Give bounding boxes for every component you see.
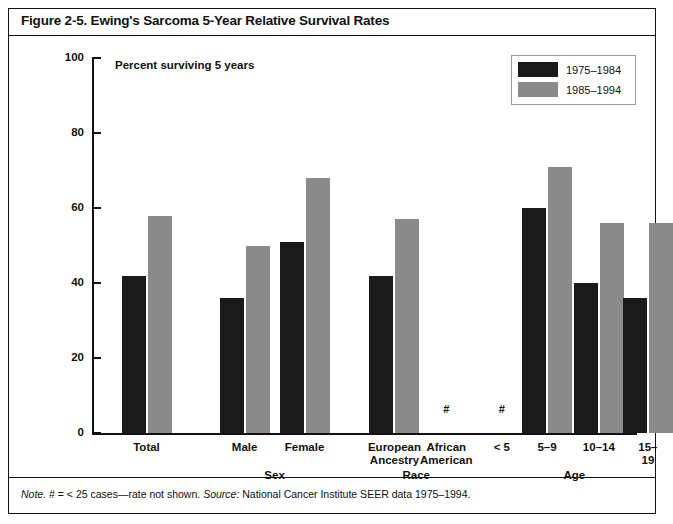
- legend-swatch: [518, 82, 558, 97]
- bar-male-1975-1984: [220, 298, 244, 433]
- figure-title-bar: Figure 2-5. Ewing's Sarcoma 5-Year Relat…: [9, 9, 655, 36]
- legend-label: 1975–1984: [566, 64, 621, 76]
- note-body: # = < 25 cases—rate not shown.: [46, 488, 203, 500]
- bar-male-1985-1994: [246, 246, 270, 434]
- x-axis-label-under-5: < 5: [494, 441, 510, 454]
- x-axis-label-european-ancestry: European Ancestry: [368, 441, 421, 467]
- chart-plot-area: Percent surviving 5 years 020406080100 #…: [9, 36, 655, 477]
- bar-15-19-1975-1984: [623, 298, 647, 433]
- bar-10-14-1975-1984: [574, 283, 598, 433]
- bar-total-1975-1984: [122, 276, 146, 434]
- x-axis-label-10-14: 10–14: [583, 441, 615, 454]
- note-prefix: Note.: [21, 488, 46, 500]
- bar-female-1975-1984: [280, 242, 304, 433]
- bar-10-14-1985-1994: [600, 223, 624, 433]
- chart-legend: 1975–19841985–1994: [511, 55, 636, 105]
- x-axis-label-african-american: African American: [420, 441, 472, 467]
- bar-5-9-1985-1994: [548, 167, 572, 433]
- x-axis-labels: TotalMaleFemaleEuropean AncestryAfrican …: [9, 435, 655, 477]
- legend-item: 1975–1984: [518, 61, 629, 78]
- bar-15-19-1985-1994: [649, 223, 673, 433]
- x-axis-label-total: Total: [133, 441, 160, 454]
- bar-total-1985-1994: [148, 216, 172, 434]
- bar-5-9-1975-1984: [522, 208, 546, 433]
- x-axis-label-15-19: 15–19: [638, 441, 657, 467]
- x-axis-label-male: Male: [232, 441, 258, 454]
- hash-marker-under-5: #: [499, 403, 505, 415]
- legend-item: 1985–1994: [518, 81, 629, 98]
- figure-note: Note. # = < 25 cases—rate not shown. Sou…: [21, 488, 470, 500]
- figure-note-bar: Note. # = < 25 cases—rate not shown. Sou…: [9, 477, 655, 513]
- source-prefix: Source:: [203, 488, 239, 500]
- source-body: National Cancer Institute SEER data 1975…: [239, 488, 470, 500]
- x-axis-label-female: Female: [285, 441, 325, 454]
- legend-label: 1985–1994: [566, 84, 621, 96]
- figure-title: Figure 2-5. Ewing's Sarcoma 5-Year Relat…: [21, 13, 389, 28]
- hash-marker-african-american: #: [443, 403, 449, 415]
- x-axis-label-5-9: 5–9: [537, 441, 556, 454]
- bar-european-ancestry-1985-1994: [395, 219, 419, 433]
- bar-european-ancestry-1975-1984: [369, 276, 393, 434]
- figure-container: Figure 2-5. Ewing's Sarcoma 5-Year Relat…: [8, 8, 656, 514]
- bar-female-1985-1994: [306, 178, 330, 433]
- legend-swatch: [518, 62, 558, 77]
